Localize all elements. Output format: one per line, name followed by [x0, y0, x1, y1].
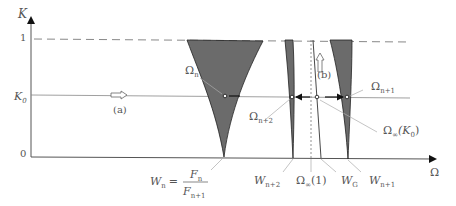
label-omega-inf-1: Ω∞(1) — [296, 174, 327, 189]
label-wg: WG — [341, 174, 358, 189]
tongue-wn1 — [330, 40, 352, 159]
tongues — [187, 40, 352, 159]
label-omega-n2: Ωn+2 — [249, 110, 273, 125]
label-omega-n1: Ωn+1 — [371, 80, 395, 95]
label-omega-inf-k0: Ω∞(K0) — [383, 124, 419, 139]
y-axis-label: K — [17, 7, 28, 21]
y-tick-0: 0 — [20, 148, 26, 159]
tongue-wn — [187, 40, 263, 157]
point-omega-n — [223, 94, 227, 98]
x-axis-label: Ω — [430, 166, 439, 179]
arnold-tongue-diagram: K Ω 1 K0 0 (a) (b) — [0, 0, 456, 206]
point-omega-n1 — [345, 95, 349, 99]
label-b: (b) — [317, 69, 331, 80]
point-omega-inf-k0 — [315, 95, 319, 99]
y-tick-1: 1 — [20, 32, 26, 43]
label-wn-num: Fn — [189, 168, 203, 183]
point-omega-n2 — [290, 95, 294, 99]
label-wn2: Wn+2 — [254, 174, 280, 189]
label-wn-den: Fn+1 — [182, 185, 205, 200]
label-wn1: Wn+1 — [369, 174, 395, 189]
label-a: (a) — [113, 104, 127, 115]
x-axis — [31, 157, 435, 159]
hollow-arrow-a — [111, 91, 127, 99]
label-wn: Wn= — [150, 175, 178, 190]
y-tick-k0: K0 — [13, 90, 27, 105]
